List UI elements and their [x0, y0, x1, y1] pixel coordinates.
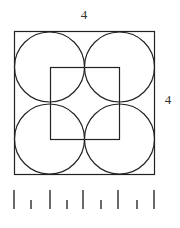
top-side-label: 4 — [81, 7, 88, 22]
right-side-label: 4 — [165, 92, 172, 107]
outer-square — [15, 32, 155, 175]
diagram-canvas: 4 4 — [0, 0, 180, 228]
inner-square — [51, 68, 120, 140]
ruler — [14, 190, 154, 209]
